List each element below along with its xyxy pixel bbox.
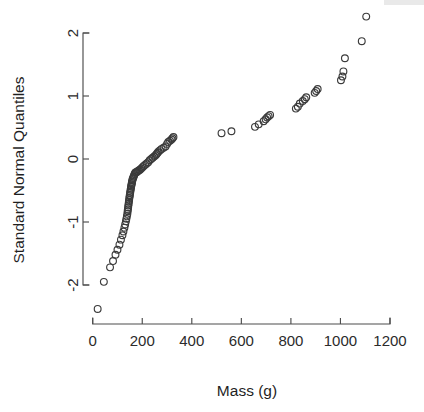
x-tick-label: 1000 xyxy=(324,332,357,349)
x-tick-label: 400 xyxy=(179,332,204,349)
data-point xyxy=(358,38,365,45)
x-tick-label: 200 xyxy=(130,332,155,349)
plot-canvas: 020040060080010001200 -2-1012 Mass (g) S… xyxy=(0,0,424,412)
y-tick-label: -2 xyxy=(64,278,81,291)
data-point xyxy=(100,278,107,285)
data-point xyxy=(218,130,225,137)
x-axis-title: Mass (g) xyxy=(217,382,277,399)
x-tick-label: 600 xyxy=(229,332,254,349)
x-tick-group xyxy=(93,318,390,324)
data-point xyxy=(228,128,235,135)
y-tick-label: 1 xyxy=(64,92,81,100)
x-tick-labels: 020040060080010001200 xyxy=(89,332,407,349)
y-tick-label: -1 xyxy=(64,215,81,228)
y-axis xyxy=(83,33,89,285)
x-tick-label: 1200 xyxy=(373,332,406,349)
data-point xyxy=(94,306,101,313)
scatter-points xyxy=(94,13,369,312)
x-axis xyxy=(93,318,390,324)
y-axis-title: Standard Normal Quantiles xyxy=(10,76,27,263)
x-tick-label: 800 xyxy=(278,332,303,349)
y-tick-label: 2 xyxy=(64,29,81,37)
y-tick-group xyxy=(83,33,89,285)
qq-plot-figure: 020040060080010001200 -2-1012 Mass (g) S… xyxy=(0,0,424,412)
x-tick-label: 0 xyxy=(89,332,97,349)
data-point xyxy=(363,13,370,20)
data-point xyxy=(342,55,349,62)
y-tick-label: 0 xyxy=(64,155,81,163)
y-tick-labels: -2-1012 xyxy=(64,29,81,292)
